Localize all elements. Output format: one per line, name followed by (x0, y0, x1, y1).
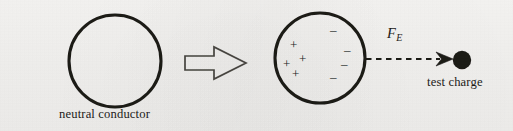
neutral-conductor-circle (69, 15, 161, 107)
neutral-conductor-label: neutral conductor (59, 108, 150, 121)
figure-canvas: + + + + – – – – neutral conductor FE tes… (0, 0, 513, 131)
negative-charge-mark: – (341, 57, 348, 70)
negative-charge-mark: – (330, 70, 337, 83)
force-symbol: F (387, 25, 396, 41)
positive-charge-mark: + (292, 67, 299, 80)
force-subscript: E (396, 32, 402, 43)
negative-charge-mark: – (330, 23, 337, 36)
test-charge-label: test charge (427, 76, 483, 89)
block-arrow-right-icon (185, 47, 246, 79)
force-vector-label: FE (387, 26, 403, 43)
positive-charge-mark: + (299, 52, 306, 65)
test-charge-dot-icon (453, 51, 471, 69)
positive-charge-mark: + (283, 57, 290, 70)
negative-charge-mark: – (344, 43, 351, 56)
positive-charge-mark: + (290, 38, 297, 51)
